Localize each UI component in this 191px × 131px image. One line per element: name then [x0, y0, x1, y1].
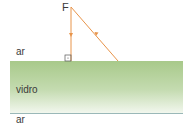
arrow-down-icon — [69, 33, 73, 37]
reflected-ray — [71, 7, 118, 61]
light-rays — [0, 0, 191, 131]
right-angle-dot — [67, 57, 68, 58]
